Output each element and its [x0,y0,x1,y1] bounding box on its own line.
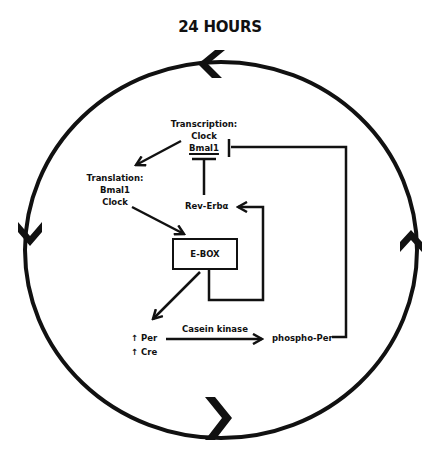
arrow-ebox-to-per [153,272,200,319]
translation-heading: Translation: [84,172,146,184]
transcription-heading: Transcription: [168,118,240,130]
transcription-bmal1: Bmal1 [168,142,240,154]
arrow-translation-to-ebox [132,207,184,234]
node-phospho-per: phospho-Per [272,332,333,344]
node-ebox: E-BOX [172,238,238,270]
transcription-clock: Clock [168,130,240,142]
node-per: ↑ Per [131,332,157,344]
translation-bmal1: Bmal1 [84,184,146,196]
diagram-canvas [0,0,440,454]
node-translation: Translation: Bmal1 Clock [84,172,146,208]
cycle-chevron-left-icon [18,222,42,246]
translation-clock: Clock [84,196,146,208]
node-cre: ↑ Cre [131,346,157,358]
node-rev-erb-alpha: Rev-Erbα [185,200,228,212]
cycle-chevron-bottom-icon [205,397,232,440]
inhibit-phosphoper-to-transcription [231,147,346,337]
node-transcription: Transcription: Clock Bmal1 [168,118,240,154]
edge-label-casein-kinase: Casein kinase [182,323,248,335]
